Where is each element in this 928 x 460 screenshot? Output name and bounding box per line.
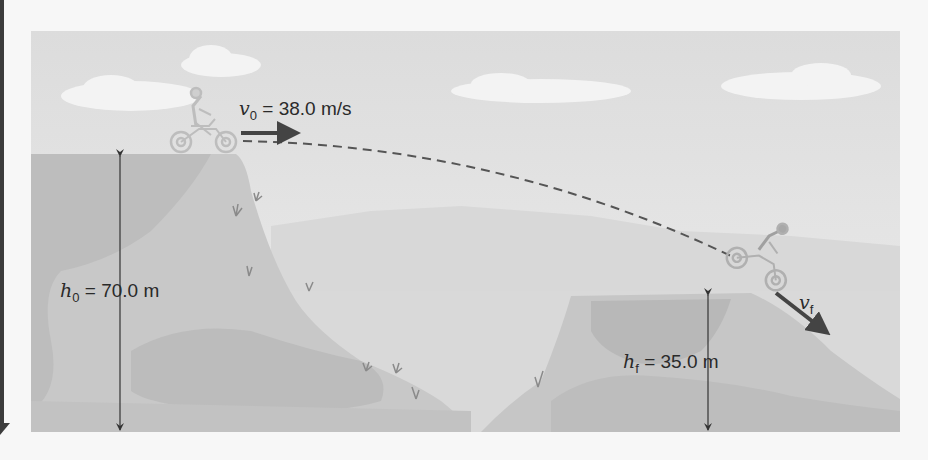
equals-sign: = xyxy=(262,98,273,119)
initial-height-value: 70.0 m xyxy=(101,280,159,301)
page-edge-arrow-tip xyxy=(0,423,10,435)
velocity-subscript: f xyxy=(810,302,814,317)
height-subscript: f xyxy=(635,361,639,376)
page-edge-bar xyxy=(0,0,4,425)
equals-sign: = xyxy=(644,351,655,372)
velocity-symbol: v xyxy=(799,291,810,313)
scene-svg xyxy=(31,31,900,432)
initial-velocity-value: 38.0 m/s xyxy=(279,98,352,119)
height-symbol: h xyxy=(623,350,635,372)
velocity-symbol: v xyxy=(239,97,250,119)
equals-sign: = xyxy=(85,280,96,301)
height-subscript: 0 xyxy=(72,290,79,305)
final-height-value: 35.0 m xyxy=(661,351,719,372)
initial-height-label: h0 = 70.0 m xyxy=(60,279,159,302)
initial-velocity-label: v0 = 38.0 m/s xyxy=(239,97,352,120)
final-height-label: hf = 35.0 m xyxy=(623,350,719,373)
height-symbol: h xyxy=(60,279,72,301)
final-velocity-label: vf xyxy=(799,291,813,314)
velocity-subscript: 0 xyxy=(250,108,257,123)
projectile-figure: v0 = 38.0 m/s vf h0 = 70.0 m hf = 35.0 m xyxy=(31,31,900,432)
